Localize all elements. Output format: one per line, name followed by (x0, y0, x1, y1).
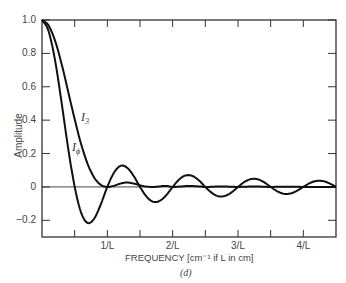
y-tick-label: 0 (8, 181, 36, 192)
x-tick-label: 4/L (288, 240, 318, 251)
curve-i-3 (42, 20, 336, 187)
curve-label-i3: I3 (81, 110, 89, 126)
y-tick-label: 0.6 (8, 81, 36, 92)
y-tick-label: 1.0 (8, 14, 36, 25)
plot-frame (42, 20, 336, 237)
x-tick-label: 3/L (223, 240, 253, 251)
x-axis-title: FREQUENCY [cm⁻¹ if L in cm] (125, 252, 254, 263)
y-tick-label: −0.2 (8, 214, 36, 225)
figure-caption: (d) (180, 267, 192, 278)
y-tick-label: 0.8 (8, 47, 36, 58)
x-tick-label: 1/L (92, 240, 122, 251)
curve-label-iphi: Iϕ (72, 140, 80, 156)
y-axis-title: Amplitude (13, 106, 24, 166)
x-tick-label: 2/L (158, 240, 188, 251)
